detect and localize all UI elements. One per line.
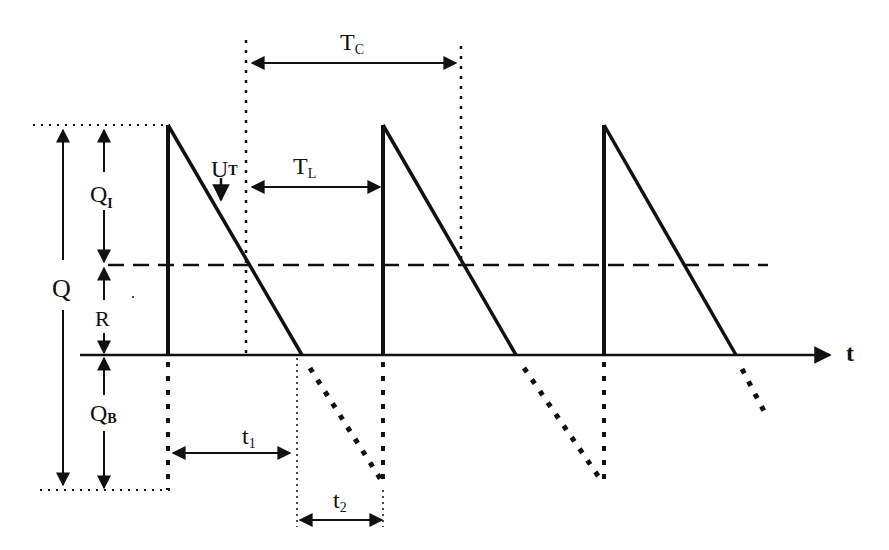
ut-annotation: UT bbox=[211, 156, 238, 200]
cycle-3 bbox=[604, 125, 766, 483]
cycle-1 bbox=[168, 125, 383, 490]
ut-label: UT bbox=[211, 156, 238, 182]
qb-dimension: QB bbox=[90, 358, 117, 488]
t2-label: t2 bbox=[333, 487, 347, 515]
inventory-diagram: t Q QI R QB bbox=[0, 0, 889, 550]
qb-label: QB bbox=[90, 400, 117, 426]
stray-dot bbox=[132, 296, 134, 298]
q-dimension: Q bbox=[52, 130, 71, 485]
r-dimension: R bbox=[95, 268, 110, 353]
t1-dimension: t1 bbox=[173, 423, 290, 453]
time-axis-label: t bbox=[846, 340, 854, 366]
tc-label: TC bbox=[340, 29, 364, 57]
tc-dimension: TC bbox=[246, 29, 461, 355]
cycle-2 bbox=[383, 125, 603, 483]
qi-label: QI bbox=[90, 181, 113, 211]
tl-label: TL bbox=[293, 153, 316, 181]
t2-dimension: t2 bbox=[297, 358, 383, 527]
r-label: R bbox=[95, 306, 110, 331]
tl-dimension: TL bbox=[252, 153, 380, 187]
qi-dimension: QI bbox=[90, 130, 113, 262]
q-label: Q bbox=[52, 274, 71, 303]
t1-label: t1 bbox=[242, 423, 256, 451]
